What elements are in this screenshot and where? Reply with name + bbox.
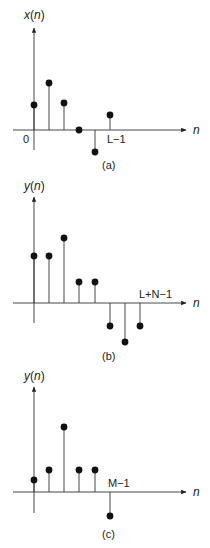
caption: (a) (102, 159, 115, 171)
x-axis-label: n (193, 123, 200, 137)
x-axis-label: n (193, 485, 200, 499)
stems (34, 427, 110, 516)
stem-markers (31, 424, 114, 520)
y-axis-label: y(n) (23, 369, 45, 383)
panel-b: y(n) n L+N−1 (b) (13, 179, 200, 362)
origin-label: 0 (23, 133, 29, 145)
panel-c: y(n) n M−1 (c) (13, 369, 200, 540)
x-axis-label: n (193, 296, 200, 310)
end-label: L+N−1 (139, 288, 172, 300)
panel-a: x(n) n 0 L−1 (a) (13, 8, 200, 171)
end-label: M−1 (108, 477, 130, 489)
caption: (c) (102, 528, 115, 540)
stem-markers (31, 235, 144, 346)
stem-plots-figure: x(n) n 0 L−1 (a) y(n) n L+N−1 (b) (0, 0, 210, 548)
stems (34, 83, 110, 152)
stem-markers (31, 80, 114, 156)
end-label: L−1 (107, 133, 126, 145)
y-axis-label: y(n) (23, 179, 45, 193)
y-axis-label: x(n) (23, 8, 45, 22)
caption: (b) (102, 350, 115, 362)
